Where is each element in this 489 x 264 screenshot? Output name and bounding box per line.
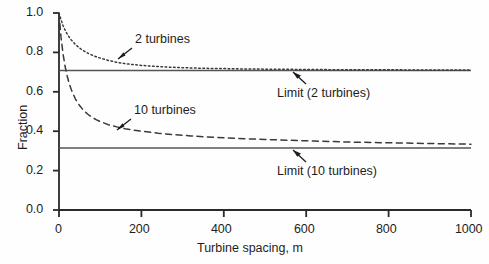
y-tick-label-0.6: 0.6 bbox=[26, 84, 43, 98]
x-tick-label-400: 400 bbox=[211, 222, 232, 236]
x-axis-title: Turbine spacing, m bbox=[197, 241, 303, 255]
x-tick-label-800: 800 bbox=[376, 222, 397, 236]
limit-lines-group bbox=[59, 71, 471, 148]
x-tick-label-600: 600 bbox=[294, 222, 315, 236]
y-tick-label-0.0: 0.0 bbox=[26, 202, 43, 216]
y-tick-label-1.0: 1.0 bbox=[26, 5, 43, 19]
plot-canvas bbox=[0, 0, 489, 264]
x-tick-marks bbox=[59, 210, 471, 217]
annotation-limit-2-turbines: Limit (2 turbines) bbox=[277, 86, 370, 100]
y-tick-label-0.8: 0.8 bbox=[26, 44, 43, 58]
x-tick-label-1000: 1000 bbox=[455, 222, 482, 236]
axes-group bbox=[59, 13, 471, 210]
series-2-turbines bbox=[59, 13, 471, 70]
data-series-group bbox=[59, 13, 471, 144]
y-tick-label-0.2: 0.2 bbox=[26, 163, 43, 177]
y-tick-label-0.4: 0.4 bbox=[26, 123, 43, 137]
annotation-limit-10-turbines: Limit (10 turbines) bbox=[277, 164, 377, 178]
x-tick-label-200: 200 bbox=[129, 222, 150, 236]
annotation-10-turbines: 10 turbines bbox=[134, 103, 196, 117]
series-10-turbines bbox=[59, 13, 471, 144]
annotation-2-turbines: 2 turbines bbox=[135, 32, 190, 46]
chart-figure: Fraction 1.0 0.8 0.6 0.4 0.2 0.0 0 200 4… bbox=[0, 0, 489, 264]
x-tick-label-0: 0 bbox=[55, 222, 62, 236]
